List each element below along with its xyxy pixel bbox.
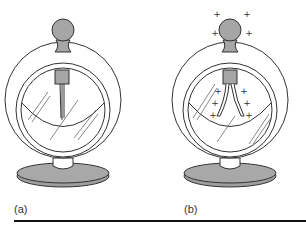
charge-icon: + — [209, 110, 217, 120]
charge-icon: + — [243, 98, 251, 108]
charge-icon: + — [213, 9, 221, 19]
electroscope-uncharged — [0, 0, 153, 200]
charge-icon: + — [211, 98, 219, 108]
charge-icon: + — [245, 110, 253, 120]
charge-icon: + — [240, 86, 248, 96]
electroscope-charged: + + + + + + + + + + — [153, 0, 306, 200]
charge-icon: + — [243, 9, 251, 19]
panel-label-b: (b) — [184, 203, 197, 215]
charge-icon: + — [211, 28, 219, 38]
charge-icon: + — [245, 28, 253, 38]
panel-label-a: (a) — [14, 203, 27, 215]
bottom-rule — [14, 220, 306, 222]
